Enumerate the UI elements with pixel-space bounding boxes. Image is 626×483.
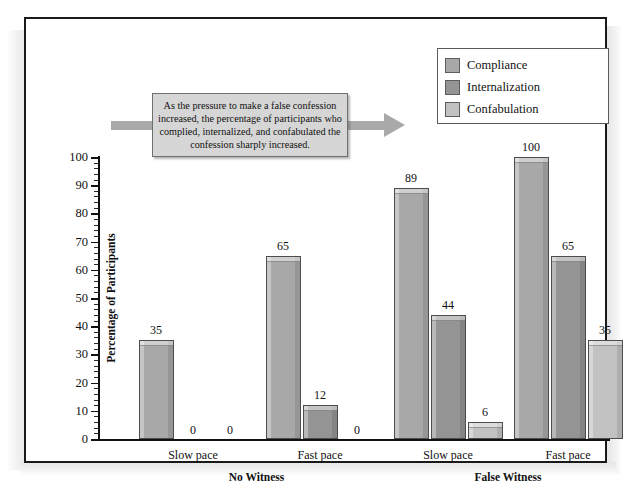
bar-highlight [432, 316, 436, 438]
y-tick-mark [91, 439, 98, 441]
y-tick-minor [94, 388, 98, 389]
bar-value-label-zero: 0 [190, 423, 196, 438]
bar-highlight [589, 341, 593, 438]
y-tick-mark [91, 270, 98, 272]
y-tick-minor [94, 247, 98, 248]
bar-top-cap [140, 341, 173, 346]
bar-value-label-zero: 0 [354, 423, 360, 438]
y-tick-minor [94, 394, 98, 395]
y-tick-minor [94, 343, 98, 344]
y-tick-label: 100 [69, 150, 88, 165]
y-tick-minor [94, 219, 98, 220]
page-shadow-left [6, 30, 26, 470]
figure-frame: Compliance Internalization Confabulation… [24, 17, 607, 463]
callout-box: As the pressure to make a false confessi… [152, 93, 348, 157]
callout-arrow-shaft [344, 121, 386, 130]
legend-swatch-confabulation [445, 102, 460, 117]
y-tick-label: 30 [76, 347, 89, 362]
legend-label-compliance: Compliance [467, 59, 527, 72]
bar-value-label: 65 [277, 239, 289, 254]
condition-label-1: No Witness [229, 471, 285, 483]
y-tick-label: 90 [76, 178, 89, 193]
bar-confabulation-group3: 6 [468, 422, 503, 439]
y-tick-minor [94, 416, 98, 417]
y-tick-mark [91, 298, 98, 300]
y-axis-line [98, 156, 100, 440]
y-tick-mark [91, 411, 98, 413]
bar-highlight [395, 189, 399, 438]
y-tick-minor [94, 191, 98, 192]
bar-value-label: 44 [442, 298, 454, 313]
bar-top-cap [395, 189, 428, 194]
legend-swatch-internalization [445, 80, 460, 95]
y-tick-minor [94, 292, 98, 293]
y-tick-minor [94, 377, 98, 378]
chart-legend: Compliance Internalization Confabulation [437, 48, 609, 124]
y-tick-minor [94, 259, 98, 260]
x-axis-line [98, 439, 610, 441]
bar-top-cap [469, 423, 502, 428]
bar-top-cap [589, 341, 622, 346]
y-tick-mark [91, 185, 98, 187]
callout-arrow-head-icon [384, 113, 405, 137]
bar-shadow [617, 341, 622, 438]
y-tick-minor [94, 400, 98, 401]
bar-top-cap [432, 316, 465, 321]
y-tick-label: 10 [76, 403, 89, 418]
bar-shadow [295, 257, 300, 438]
bar-internalization-group4: 65 [551, 256, 586, 439]
bar-top-cap [552, 257, 585, 262]
pace-label-group1: Slow pace [168, 448, 218, 463]
y-tick-minor [94, 236, 98, 237]
bar-compliance-group2: 65 [266, 256, 301, 439]
y-tick-minor [94, 332, 98, 333]
pace-label-group3: Slow pace [423, 448, 473, 463]
y-tick-minor [94, 225, 98, 226]
bar-compliance-group3: 89 [394, 188, 429, 439]
y-tick-minor [94, 337, 98, 338]
y-tick-mark [91, 213, 98, 215]
y-tick-minor [94, 321, 98, 322]
bar-highlight [140, 341, 144, 438]
bar-internalization-group3: 44 [431, 315, 466, 439]
legend-item-internalization: Internalization [445, 76, 602, 98]
bar-value-label: 89 [405, 171, 417, 186]
y-tick-label: 50 [76, 291, 89, 306]
y-tick-minor [94, 208, 98, 209]
y-tick-label: 70 [76, 234, 89, 249]
y-tick-minor [94, 360, 98, 361]
condition-label-2: False Witness [475, 471, 542, 483]
bar-shadow [543, 158, 548, 438]
y-axis-title: Percentage of Participants [105, 233, 117, 362]
y-tick-label: 0 [82, 432, 88, 447]
bar-shadow [580, 257, 585, 438]
bar-value-label: 35 [599, 323, 611, 338]
y-tick-label: 80 [76, 206, 89, 221]
bar-top-cap [515, 158, 548, 163]
legend-label-internalization: Internalization [467, 81, 540, 94]
bar-highlight [515, 158, 519, 438]
pace-label-group2: Fast pace [298, 448, 343, 463]
y-tick-minor [94, 349, 98, 350]
bar-value-label: 100 [522, 140, 540, 155]
bar-highlight [267, 257, 271, 438]
y-tick-minor [94, 422, 98, 423]
legend-label-confabulation: Confabulation [467, 103, 539, 116]
y-tick-minor [94, 304, 98, 305]
y-tick-minor [94, 168, 98, 169]
bar-value-label: 12 [314, 388, 326, 403]
y-tick-minor [94, 275, 98, 276]
bar-top-cap [304, 406, 337, 411]
legend-item-compliance: Compliance [445, 54, 602, 76]
pace-label-group4: Fast pace [546, 448, 591, 463]
y-tick-minor [94, 281, 98, 282]
bar-internalization-group2: 12 [303, 405, 338, 439]
y-tick-mark [91, 383, 98, 385]
y-tick-minor [94, 433, 98, 434]
callout-text: As the pressure to make a false confessi… [153, 99, 347, 151]
y-tick-label: 60 [76, 262, 89, 277]
y-tick-minor [94, 287, 98, 288]
y-tick-minor [94, 180, 98, 181]
y-tick-label: 40 [76, 319, 89, 334]
y-tick-mark [91, 242, 98, 244]
